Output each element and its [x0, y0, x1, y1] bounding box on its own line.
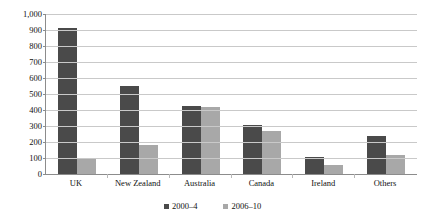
y-axis-tickmark	[43, 142, 46, 143]
gridline	[46, 30, 417, 31]
legend-item: 2000–4	[164, 202, 198, 211]
x-axis-category-label: Ireland	[292, 178, 354, 188]
gridline	[46, 62, 417, 63]
bar	[182, 106, 201, 174]
y-axis-tickmark	[43, 62, 46, 63]
x-axis-tickmark	[231, 174, 232, 178]
axis-baseline	[46, 174, 417, 175]
gridline	[46, 78, 417, 79]
legend-label: 2006–10	[231, 202, 261, 211]
y-axis-tickmark	[43, 30, 46, 31]
gridline	[46, 158, 417, 159]
x-axis-tickmark	[292, 174, 293, 178]
plot-area	[45, 14, 417, 174]
bar	[120, 86, 139, 174]
bar	[262, 131, 281, 174]
y-axis-tick-label: 500	[14, 90, 42, 99]
y-axis-tickmark	[43, 94, 46, 95]
gridline	[46, 14, 417, 15]
y-axis-tick-label: 200	[14, 138, 42, 147]
y-axis-tickmark	[43, 110, 46, 111]
y-axis-tick-label: 900	[14, 26, 42, 35]
y-axis-tickmark	[43, 46, 46, 47]
x-axis-category-label: UK	[45, 178, 107, 188]
chart-legend: 2000–42006–10	[0, 199, 425, 213]
y-axis-tick-label: 300	[14, 122, 42, 131]
gridline	[46, 110, 417, 111]
y-axis-tick-label: 100	[14, 154, 42, 163]
gridline	[46, 126, 417, 127]
legend-item: 2006–10	[223, 202, 261, 211]
x-axis-tickmark	[169, 174, 170, 178]
bar	[201, 107, 220, 174]
y-axis-tick-label: 700	[14, 58, 42, 67]
gridline	[46, 46, 417, 47]
x-axis-category-label: Australia	[169, 178, 231, 188]
bar	[243, 125, 262, 174]
y-axis-tick-labels: 01002003004005006007008009001,000	[14, 0, 42, 223]
legend-swatch-icon	[164, 204, 169, 209]
y-axis-tick-label: 1,000	[14, 10, 42, 19]
y-axis-tickmark	[43, 14, 46, 15]
y-axis-tick-label: 0	[14, 170, 42, 179]
y-axis-tick-label: 800	[14, 42, 42, 51]
x-axis-tickmark	[107, 174, 108, 178]
y-axis-tickmark	[43, 78, 46, 79]
bar-chart: Number of advertisements 010020030040050…	[0, 0, 425, 223]
bar	[139, 145, 158, 174]
bar	[305, 157, 324, 174]
x-axis-tickmark	[354, 174, 355, 178]
x-axis-category-label: Canada	[231, 178, 293, 188]
y-axis-tickmark	[43, 126, 46, 127]
y-axis-tickmark	[43, 174, 46, 175]
y-axis-tickmark	[43, 158, 46, 159]
gridline	[46, 142, 417, 143]
gridline	[46, 94, 417, 95]
bar	[58, 28, 77, 174]
x-axis-category-label: Others	[354, 178, 416, 188]
y-axis-tick-label: 600	[14, 74, 42, 83]
legend-label: 2000–4	[172, 202, 198, 211]
y-axis-tick-label: 400	[14, 106, 42, 115]
x-axis-category-label: New Zealand	[107, 178, 169, 188]
bar	[77, 158, 96, 174]
legend-swatch-icon	[223, 204, 228, 209]
x-axis-category-labels: UKNew ZealandAustraliaCanadaIrelandOther…	[45, 178, 416, 192]
bar	[324, 165, 343, 174]
